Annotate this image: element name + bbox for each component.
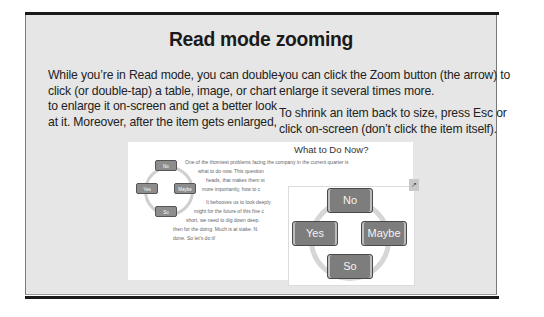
doc-line: short, we need to dig down deep.: [186, 216, 260, 225]
right-paragraph-1: you can click the Zoom button (the arrow…: [279, 68, 489, 99]
sidebar-box: Read mode zooming While you’re in Read m…: [25, 15, 497, 295]
text-line: click (or double-tap) a table, image, or…: [48, 84, 266, 100]
text-line: click on-screen (don’t click the item it…: [279, 122, 489, 138]
zoom-button[interactable]: ↗: [409, 179, 419, 191]
diagram-node-so: So: [327, 254, 373, 279]
doc-line: done. So let’s do it!: [173, 234, 215, 243]
doc-line: then for the doing. Much is at stake. N: [173, 225, 257, 234]
doc-line: It behooves us to look deeply: [206, 198, 271, 207]
diagram-node-no: No: [155, 160, 177, 171]
text-line: To shrink an item back to size, press Es…: [279, 106, 489, 122]
doc-line: what to do now. This question: [198, 167, 264, 176]
doc-line: heads, that makes them st: [206, 176, 265, 185]
read-mode-screenshot: What to Do Now? No Yes Maybe So One of t…: [128, 142, 413, 280]
sidebar-title: Read mode zooming: [45, 27, 477, 51]
text-line: While you’re in Read mode, you can doubl…: [48, 68, 266, 84]
right-column: you can click the Zoom button (the arrow…: [279, 68, 489, 144]
doc-title: What to Do Now?: [294, 144, 368, 155]
small-cycle-diagram[interactable]: No Yes Maybe So: [138, 160, 198, 220]
diagram-node-maybe: Maybe: [361, 221, 407, 246]
bottom-rule: [25, 296, 499, 299]
text-line: to enlarge it on-screen and get a better…: [48, 99, 266, 115]
diagram-node-maybe: Maybe: [174, 183, 196, 194]
doc-line: One of the thorniest problems facing the…: [185, 158, 348, 167]
zoom-arrow-icon: ↗: [411, 181, 417, 188]
zoomed-diagram-popup[interactable]: No Yes Maybe So: [288, 186, 415, 286]
right-paragraph-2: To shrink an item back to size, press Es…: [279, 106, 489, 137]
diagram-node-yes: Yes: [292, 221, 338, 246]
text-line: at it. Moreover, after the item gets enl…: [48, 115, 266, 131]
left-column: While you’re in Read mode, you can doubl…: [48, 68, 266, 137]
left-paragraph: While you’re in Read mode, you can doubl…: [48, 68, 266, 130]
doc-line: more importantly, how to c: [202, 185, 260, 194]
text-line: you can click the Zoom button (the arrow…: [279, 68, 489, 84]
doc-line: might for the future of this fine c: [194, 207, 264, 216]
diagram-node-yes: Yes: [136, 183, 158, 194]
diagram-node-so: So: [155, 206, 177, 217]
text-line: enlarge it several times more.: [279, 84, 489, 100]
diagram-node-no: No: [327, 188, 373, 213]
